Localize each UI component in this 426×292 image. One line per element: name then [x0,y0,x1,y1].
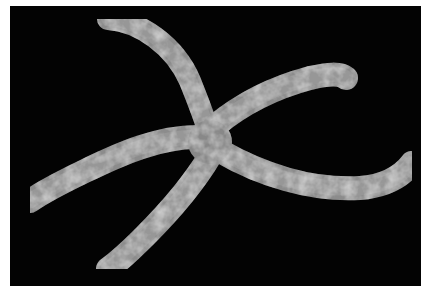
starfish-illustration [10,6,421,286]
starfish-photo [10,6,421,286]
